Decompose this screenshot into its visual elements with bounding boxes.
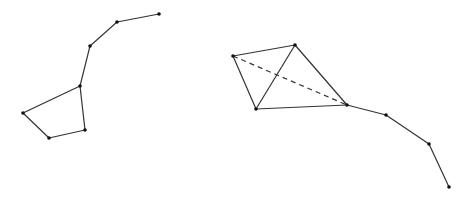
edge-L7-L4 xyxy=(80,86,85,130)
vertex-L4 xyxy=(78,84,82,88)
edge-R3-R4 xyxy=(256,105,347,109)
edge-L4-L5 xyxy=(23,86,80,113)
vertex-R7 xyxy=(447,185,451,189)
edge-L5-L6 xyxy=(23,113,49,138)
right-figure xyxy=(231,43,451,189)
dashed-edge-R1-R4 xyxy=(233,56,347,105)
edge-R6-R7 xyxy=(429,144,449,187)
vertex-R1 xyxy=(231,54,235,58)
vertex-L2 xyxy=(115,20,119,24)
left-figure xyxy=(21,12,161,140)
vertex-R6 xyxy=(427,142,431,146)
edge-L1-L2 xyxy=(117,14,159,22)
graph-diagram-canvas xyxy=(0,0,466,198)
edge-L3-L4 xyxy=(80,46,90,86)
vertex-L7 xyxy=(83,128,87,132)
vertex-R4 xyxy=(345,103,349,107)
edge-R2-R4 xyxy=(295,45,347,105)
edge-R4-R5 xyxy=(347,105,386,115)
edge-R2-R3 xyxy=(256,45,295,109)
vertex-R5 xyxy=(384,113,388,117)
edge-R1-R2 xyxy=(233,45,295,56)
edge-L2-L3 xyxy=(90,22,117,46)
vertex-L6 xyxy=(47,136,51,140)
vertex-L5 xyxy=(21,111,25,115)
edge-R5-R6 xyxy=(386,115,429,144)
vertex-L1 xyxy=(157,12,161,16)
vertex-R3 xyxy=(254,107,258,111)
edge-L6-L7 xyxy=(49,130,85,138)
vertex-L3 xyxy=(88,44,92,48)
vertex-R2 xyxy=(293,43,297,47)
